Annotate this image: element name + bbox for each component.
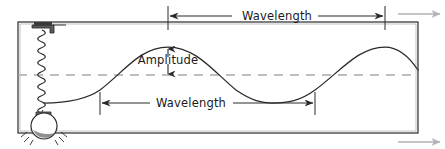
wavelength-label-top: Wavelength: [242, 9, 312, 23]
amplitude-measure: Amplitude: [138, 49, 199, 74]
coil-spring: [38, 30, 46, 117]
wave-diagram: Wavelength Wavelength Amplitude: [0, 0, 445, 149]
wavelength-label-bottom: Wavelength: [156, 96, 226, 110]
wavelength-measure-bottom: Wavelength: [100, 92, 315, 115]
oscillating-mass: [31, 112, 57, 139]
wavelength-measure-top: Wavelength: [168, 6, 385, 30]
amplitude-label: Amplitude: [138, 53, 199, 67]
oscillator-assembly: [21, 22, 67, 145]
clamp-bracket: [32, 22, 66, 33]
tank-frame: [18, 22, 418, 133]
